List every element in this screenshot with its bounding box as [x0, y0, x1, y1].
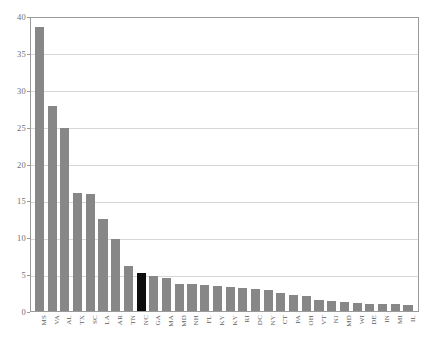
- x-axis-label-slot: NH: [193, 315, 194, 351]
- bar: [327, 301, 336, 311]
- x-axis-tick-label: SC: [92, 315, 99, 324]
- y-axis-tick-label: 10: [17, 234, 26, 243]
- x-axis-label-slot: OH: [308, 315, 309, 351]
- y-axis-tick-label: 15: [17, 197, 26, 206]
- bar: [365, 304, 374, 311]
- bar: [124, 266, 133, 311]
- x-axis-tick-label: MD: [181, 315, 188, 327]
- bar-series: [31, 18, 418, 311]
- x-axis-tick-label: GA: [155, 315, 162, 326]
- x-axis-tick-label: DC: [257, 315, 264, 325]
- x-axis-label-slot: MD: [181, 315, 182, 351]
- x-axis-tick-label: WI: [359, 315, 366, 324]
- x-axis-tick-label: PA: [295, 315, 302, 324]
- bar: [276, 293, 285, 311]
- x-axis-tick-label: KY: [219, 315, 226, 326]
- x-axis-tick-label: MS: [41, 315, 48, 326]
- x-axis-label-slot: TN: [130, 315, 131, 351]
- x-axis-label-slot: IN: [384, 315, 385, 351]
- x-axis-tick-label: TN: [130, 315, 137, 325]
- x-axis-label-slot: PA: [295, 315, 296, 351]
- x-axis-label-slot: CT: [282, 315, 283, 351]
- x-axis-label-slot: AR: [117, 315, 118, 351]
- bar: [391, 304, 400, 311]
- bar: [264, 290, 273, 311]
- bar: [111, 239, 120, 311]
- x-axis-tick-label: NH: [193, 315, 200, 326]
- x-axis-label-slot: NC: [143, 315, 144, 351]
- x-axis-tick-label: NC: [143, 315, 150, 325]
- x-axis-label-slot: RI: [244, 315, 245, 351]
- bar: [48, 106, 57, 311]
- y-axis-tick-label: 25: [17, 124, 26, 133]
- x-axis-label-slot: TX: [79, 315, 80, 351]
- x-axis-tick-label: OH: [308, 315, 315, 326]
- y-axis-tick-label: 35: [17, 50, 26, 59]
- x-axis-label-slot: IL: [410, 315, 411, 351]
- bar: [289, 295, 298, 311]
- bar: [73, 193, 82, 311]
- x-axis-label-slot: MD: [346, 315, 347, 351]
- x-axis-tick-label: NY: [270, 315, 277, 326]
- x-axis-label-slot: KY: [219, 315, 220, 351]
- bar: [251, 289, 260, 311]
- figure-caption: [8, 0, 438, 6]
- x-axis-label-slot: NY: [270, 315, 271, 351]
- bar: [175, 284, 184, 311]
- plot-area: [30, 17, 419, 312]
- x-axis-tick-label: KY: [232, 315, 239, 326]
- x-axis-tick-label: RI: [244, 315, 251, 322]
- x-axis-tick-label: LA: [104, 315, 111, 325]
- bar: [200, 285, 209, 311]
- x-axis-label-slot: FL: [206, 315, 207, 351]
- bar: [60, 128, 69, 311]
- bar: [213, 286, 222, 311]
- x-axis-tick-label: CT: [282, 315, 289, 324]
- bar: [302, 296, 311, 311]
- bar: [98, 219, 107, 311]
- x-axis-label-slot: KY: [232, 315, 233, 351]
- bar: [238, 288, 247, 311]
- bar: [162, 278, 171, 311]
- x-axis-tick-label: FL: [206, 315, 213, 324]
- y-axis-tick-label: 20: [17, 161, 26, 170]
- bar: [340, 302, 349, 311]
- bar: [353, 303, 362, 311]
- x-axis-label-slot: SC: [92, 315, 93, 351]
- x-axis-tick-label: MI: [397, 315, 404, 324]
- x-axis-labels: MSVAALTXSCLAARTNNCGAMAMDNHFLKYKYRIDCNYCT…: [30, 313, 419, 352]
- bar: [403, 305, 412, 311]
- bar: [314, 300, 323, 311]
- x-axis-tick-label: DE: [371, 315, 378, 325]
- x-axis-tick-label: VT: [321, 315, 328, 325]
- x-axis-tick-label: VA: [54, 315, 61, 325]
- x-axis-label-slot: GA: [155, 315, 156, 351]
- x-axis-tick-label: IL: [410, 315, 417, 322]
- x-axis-label-slot: NJ: [333, 315, 334, 351]
- y-axis-tick-label: 40: [17, 13, 26, 22]
- y-axis-tick-label: 30: [17, 87, 26, 96]
- bar: [35, 27, 44, 311]
- x-axis-label-slot: VT: [321, 315, 322, 351]
- bar: [226, 287, 235, 311]
- y-axis: 0510152025303540: [0, 0, 30, 352]
- x-axis-label-slot: MA: [168, 315, 169, 351]
- x-axis-label-slot: LA: [104, 315, 105, 351]
- bar: [187, 284, 196, 311]
- x-axis-tick-label: MA: [168, 315, 175, 327]
- x-axis-label-slot: DE: [371, 315, 372, 351]
- x-axis-tick-label: NJ: [333, 315, 340, 323]
- x-axis-label-slot: AL: [66, 315, 67, 351]
- bar: [378, 304, 387, 311]
- x-axis-tick-label: AL: [66, 315, 73, 325]
- bar: [137, 273, 146, 311]
- x-axis-tick-label: TX: [79, 315, 86, 325]
- x-axis-label-slot: MS: [41, 315, 42, 351]
- y-axis-tick-label: 0: [21, 308, 26, 317]
- x-axis-tick-label: IN: [384, 315, 391, 323]
- bar: [86, 194, 95, 311]
- x-axis-label-slot: MI: [397, 315, 398, 351]
- x-axis-label-slot: DC: [257, 315, 258, 351]
- y-axis-tick-label: 5: [21, 271, 26, 280]
- x-axis-tick-label: AR: [117, 315, 124, 325]
